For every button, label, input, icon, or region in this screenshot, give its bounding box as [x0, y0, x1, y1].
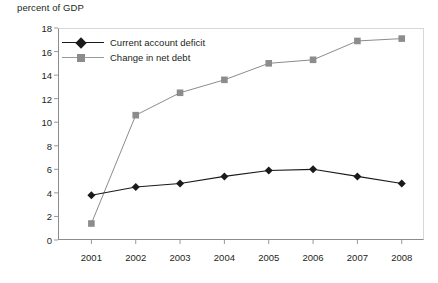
square-data-marker	[310, 57, 317, 64]
square-marker-icon	[77, 54, 85, 62]
square-data-marker	[265, 60, 272, 67]
square-data-marker	[177, 89, 184, 96]
legend-swatch-series-1	[62, 37, 104, 49]
diamond-data-marker	[132, 183, 140, 191]
chart-legend: Current account deficit Change in net de…	[62, 35, 242, 65]
legend-swatch-series-2	[62, 52, 104, 64]
series-line	[91, 39, 401, 224]
legend-item-current-account-deficit: Current account deficit	[62, 35, 242, 50]
square-data-marker	[221, 77, 228, 84]
chart-figure: percent of GDP 024681012141618 200120022…	[0, 0, 438, 283]
legend-label-series-1: Current account deficit	[110, 37, 205, 48]
square-data-marker	[132, 112, 139, 119]
diamond-data-marker	[220, 172, 228, 180]
diamond-data-marker	[353, 172, 361, 180]
diamond-data-marker	[398, 179, 406, 187]
legend-item-change-in-net-debt: Change in net debt	[62, 50, 242, 65]
square-data-marker	[88, 220, 95, 227]
diamond-marker-icon	[75, 37, 86, 48]
diamond-data-marker	[265, 167, 273, 175]
series-line	[91, 169, 401, 195]
diamond-data-marker	[87, 191, 95, 199]
square-data-marker	[354, 38, 361, 45]
series-1-diamond	[87, 165, 405, 199]
diamond-data-marker	[309, 165, 317, 173]
diamond-data-marker	[176, 179, 184, 187]
legend-label-series-2: Change in net debt	[110, 52, 190, 63]
square-data-marker	[398, 35, 405, 42]
